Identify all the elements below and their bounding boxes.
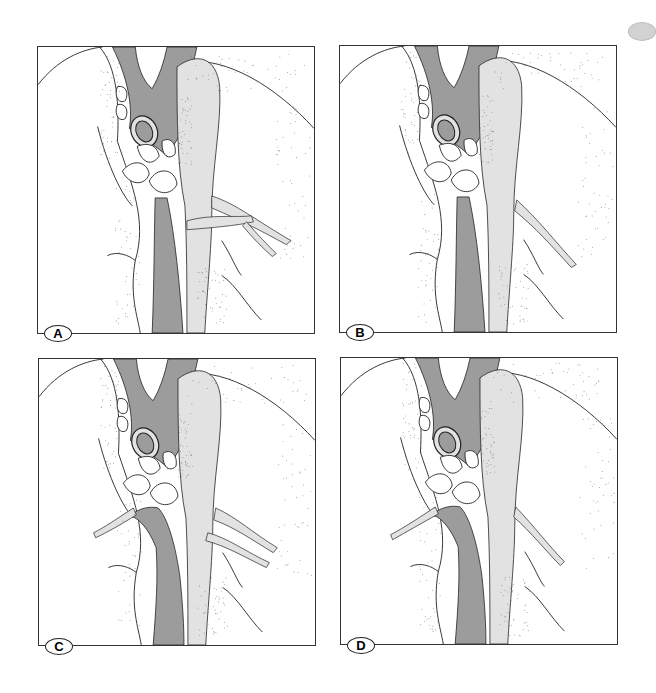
stipple-dot — [117, 304, 118, 305]
stipple-dot — [500, 79, 501, 80]
stipple-dot — [185, 462, 186, 463]
stipple-dot — [284, 499, 285, 500]
stipple-dot — [294, 132, 295, 133]
stipple-dot — [135, 518, 136, 519]
stipple-dot — [483, 438, 484, 439]
stipple-dot — [610, 153, 611, 154]
stipple-dot — [103, 130, 104, 131]
stipple-dot — [417, 139, 418, 140]
stipple-dot — [215, 613, 216, 614]
stipple-dot — [435, 529, 436, 530]
stipple-dot — [295, 108, 296, 109]
stipple-dot — [209, 373, 210, 374]
stipple-dot — [118, 85, 119, 86]
stipple-dot — [119, 252, 120, 253]
stipple-dot — [296, 114, 297, 115]
stipple-dot — [512, 53, 513, 54]
stipple-dot — [588, 376, 589, 377]
stipple-dot — [414, 364, 415, 365]
stipple-dot — [204, 317, 205, 318]
stipple-dot — [137, 533, 138, 534]
stipple-dot — [229, 379, 230, 380]
stipple-dot — [185, 438, 186, 439]
stipple-dot — [403, 432, 404, 433]
left-lung-outline — [341, 358, 406, 396]
stipple-dot — [491, 149, 492, 150]
stipple-dot — [291, 147, 292, 148]
stipple-dot — [489, 101, 490, 102]
stipple-dot — [216, 596, 217, 597]
stipple-dot — [105, 85, 106, 86]
stipple-dot — [419, 566, 420, 567]
stipple-dot — [135, 555, 136, 556]
stipple-dot — [283, 478, 284, 479]
stipple-dot — [597, 228, 598, 229]
stipple-dot — [420, 540, 421, 541]
stipple-dot — [213, 634, 214, 635]
stipple-dot — [522, 318, 523, 319]
anatomy-drawing — [341, 358, 617, 644]
stipple-dot — [599, 195, 600, 196]
stipple-dot — [116, 376, 117, 377]
stipple-dot — [206, 277, 207, 278]
lung-fissure-line — [409, 252, 437, 259]
stipple-dot — [138, 256, 139, 257]
stipple-dot — [511, 392, 512, 393]
stipple-dot — [402, 446, 403, 447]
stipple-dot — [481, 418, 482, 419]
stipple-dot — [487, 473, 488, 474]
stipple-dot — [583, 381, 584, 382]
stipple-dot — [118, 384, 119, 385]
stipple-dot — [219, 282, 220, 283]
stipple-dot — [213, 631, 214, 632]
lymph-node — [117, 398, 128, 413]
stipple-dot — [411, 64, 412, 65]
stipple-dot — [138, 536, 139, 537]
stipple-dot — [125, 281, 126, 282]
stipple-dot — [132, 287, 133, 288]
stipple-dot — [205, 605, 206, 606]
stipple-dot — [405, 129, 406, 130]
esophagus — [454, 197, 485, 332]
stipple-dot — [307, 573, 308, 574]
stipple-dot — [129, 567, 130, 568]
stipple-dot — [602, 150, 603, 151]
stipple-dot — [405, 456, 406, 457]
stipple-dot — [438, 239, 439, 240]
stipple-dot — [114, 373, 115, 374]
stipple-dot — [563, 371, 564, 372]
stipple-dot — [493, 453, 494, 454]
stipple-dot — [499, 270, 500, 271]
stipple-dot — [179, 427, 180, 428]
stipple-dot — [603, 129, 604, 130]
stipple-dot — [436, 581, 437, 582]
stipple-dot — [281, 540, 282, 541]
stipple-dot — [597, 369, 598, 370]
stipple-dot — [120, 229, 121, 230]
stipple-dot — [215, 297, 216, 298]
stipple-dot — [235, 71, 236, 72]
stipple-dot — [507, 604, 508, 605]
stipple-dot — [183, 109, 184, 110]
stipple-dot — [298, 389, 299, 390]
stipple-dot — [185, 110, 186, 111]
stipple-dot — [127, 316, 128, 317]
stipple-dot — [139, 595, 140, 596]
stipple-dot — [293, 382, 294, 383]
stipple-dot — [480, 127, 481, 128]
stipple-dot — [490, 141, 491, 142]
stipple-dot — [220, 611, 221, 612]
stipple-dot — [103, 137, 104, 138]
stipple-dot — [187, 463, 188, 464]
stipple-dot — [437, 286, 438, 287]
stipple-dot — [281, 555, 282, 556]
stipple-dot — [224, 628, 225, 629]
stipple-dot — [279, 527, 280, 528]
stipple-dot — [432, 270, 433, 271]
stipple-dot — [597, 501, 598, 502]
stipple-dot — [510, 307, 511, 308]
stipple-dot — [191, 147, 192, 148]
stipple-dot — [420, 624, 421, 625]
stipple-dot — [503, 88, 504, 89]
stipple-dot — [527, 264, 528, 265]
